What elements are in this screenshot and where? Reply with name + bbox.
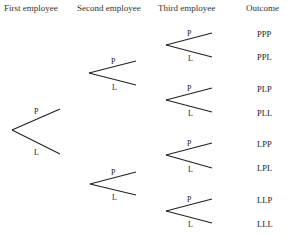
- outcome-ppl: PPL: [257, 52, 272, 62]
- branch-label-p: P: [34, 107, 39, 116]
- branch-label-l: L: [188, 220, 193, 229]
- outcome-lpl: LPL: [257, 163, 272, 173]
- branch-label-p: P: [187, 84, 192, 93]
- branch-label-p: P: [187, 139, 192, 148]
- branch-label-p: P: [187, 29, 192, 38]
- branch-label-p: P: [111, 168, 116, 177]
- branch-label-l: L: [188, 165, 193, 174]
- branch-label-l: L: [34, 148, 39, 157]
- outcome-lpp: LPP: [257, 139, 272, 149]
- outcome-lll: LLL: [257, 219, 273, 229]
- outcome-llp: LLP: [257, 195, 272, 205]
- branch-label-p: P: [187, 195, 192, 204]
- tree-diagram: P L P L P L P L P L P L P L PPP PPL PLP …: [0, 0, 287, 237]
- branch-label-p: P: [111, 57, 116, 66]
- outcome-plp: PLP: [257, 84, 272, 94]
- branch-label-l: L: [188, 109, 193, 118]
- branch-label-l: L: [188, 54, 193, 63]
- outcome-pll: PLL: [257, 108, 272, 118]
- outcome-ppp: PPP: [257, 29, 271, 39]
- branch-label-l: L: [112, 193, 117, 202]
- branch-label-l: L: [112, 83, 117, 92]
